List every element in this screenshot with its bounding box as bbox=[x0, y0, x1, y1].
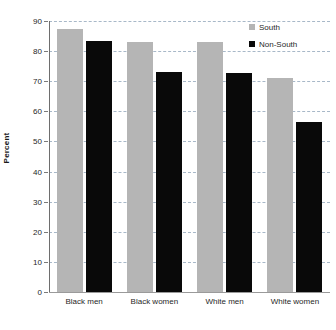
bars-layer bbox=[49, 21, 330, 292]
y-tick-mark bbox=[44, 111, 48, 112]
bar bbox=[156, 72, 182, 292]
bar bbox=[267, 78, 293, 292]
y-tick-label: 40 bbox=[6, 167, 42, 176]
y-axis-tick-labels: 9080706050403020100 bbox=[0, 0, 42, 330]
x-category-label: White men bbox=[206, 297, 244, 306]
y-tick-mark bbox=[44, 81, 48, 82]
bar bbox=[127, 42, 153, 292]
bar bbox=[86, 41, 112, 292]
y-tick-label: 50 bbox=[6, 137, 42, 146]
y-tick-mark bbox=[44, 21, 48, 22]
legend-item: Non-South bbox=[249, 39, 297, 49]
legend-label: Non-South bbox=[259, 40, 297, 49]
legend-swatch-non-south bbox=[249, 41, 255, 47]
y-tick-mark bbox=[44, 232, 48, 233]
x-category-label: Black women bbox=[131, 297, 179, 306]
x-axis-line bbox=[49, 292, 330, 293]
legend-item: South bbox=[249, 22, 297, 32]
y-tick-label: 90 bbox=[6, 17, 42, 26]
legend-label: South bbox=[259, 23, 280, 32]
y-tick-mark bbox=[44, 172, 48, 173]
y-tick-label: 10 bbox=[6, 257, 42, 266]
y-tick-label: 0 bbox=[6, 288, 42, 297]
bar bbox=[197, 42, 223, 292]
x-category-label: Black men bbox=[65, 297, 102, 306]
y-tick-label: 60 bbox=[6, 107, 42, 116]
x-category-label: White women bbox=[271, 297, 319, 306]
y-tick-label: 30 bbox=[6, 197, 42, 206]
chart-legend: SouthNon-South bbox=[249, 22, 297, 56]
y-tick-label: 70 bbox=[6, 77, 42, 86]
y-tick-mark bbox=[44, 202, 48, 203]
bar-chart: Percent 9080706050403020100 Black menBla… bbox=[0, 0, 336, 330]
y-tick-mark bbox=[44, 262, 48, 263]
bar bbox=[226, 73, 252, 292]
y-tick-label: 20 bbox=[6, 227, 42, 236]
y-tick-mark bbox=[44, 292, 48, 293]
y-tick-mark bbox=[44, 51, 48, 52]
y-tick-mark bbox=[44, 141, 48, 142]
bar bbox=[57, 29, 83, 292]
legend-swatch-south bbox=[249, 24, 255, 30]
bar bbox=[296, 122, 322, 292]
y-tick-label: 80 bbox=[6, 47, 42, 56]
